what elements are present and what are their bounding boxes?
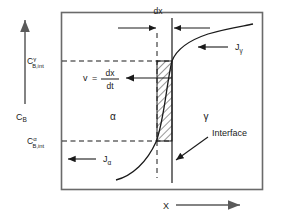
velocity-equals: = [92, 73, 97, 83]
velocity-numerator: dx [106, 68, 116, 78]
diagram-canvas: CB X CγB,int CαB,int dx [0, 0, 283, 218]
interface-label: Interface [212, 128, 247, 138]
background [0, 0, 283, 218]
x-axis-label: X [163, 201, 169, 211]
phase-label-gamma: γ [204, 111, 209, 122]
velocity-variable: v [83, 73, 88, 83]
velocity-denominator: dt [106, 81, 114, 91]
dx-label: dx [154, 6, 164, 16]
phase-label-alpha: α [110, 111, 116, 122]
